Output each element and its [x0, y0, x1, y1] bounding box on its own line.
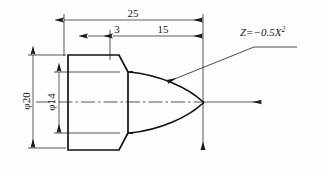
- formula-annotation: Z=−0.5X2: [167, 25, 297, 82]
- dimension-label-chamfer-length: 3: [114, 23, 120, 35]
- dimension-label-nose-length: 15: [158, 23, 170, 35]
- part-outline: [68, 55, 204, 150]
- vertical-dimensions: φ20 φ14: [20, 55, 59, 148]
- parabolic-nose-lower: [130, 104, 202, 133]
- cylinder-body-profile: [68, 55, 128, 150]
- parabolic-nose-tip: [202, 101, 204, 104]
- engineering-drawing-svg: 25 3 15 φ20 φ14: [0, 0, 328, 174]
- technical-drawing-canvas: 25 3 15 φ20 φ14: [0, 0, 328, 174]
- formula-label: Z=−0.5X2: [240, 25, 285, 38]
- formula-exponent: 2: [281, 25, 285, 34]
- dimension-label-outer-diameter: φ20: [20, 92, 32, 110]
- dimension-label-overall-length: 25: [128, 7, 140, 19]
- horizontal-dimensions: 25 3 15: [64, 7, 203, 36]
- formula-base: Z=−0.5X: [240, 26, 283, 38]
- parabolic-nose-upper: [130, 72, 202, 101]
- leader-pointer-segment: [167, 47, 254, 82]
